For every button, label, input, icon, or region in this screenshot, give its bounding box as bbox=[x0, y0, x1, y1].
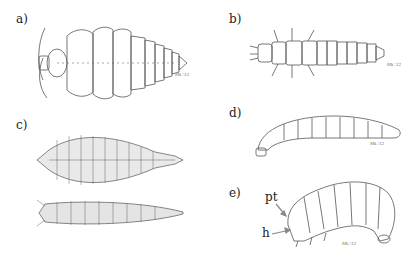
larva-illustration-d bbox=[254, 108, 404, 158]
larva-illustration-c-dorsal bbox=[35, 130, 185, 190]
panel-label-e: e) bbox=[229, 186, 241, 200]
signature-e: Mk.'12 bbox=[342, 241, 356, 246]
annotation-arrows bbox=[268, 200, 298, 240]
panel-label-b: b) bbox=[229, 12, 241, 26]
panel-label-a: a) bbox=[16, 12, 28, 26]
signature-a: Mk.'12 bbox=[175, 72, 189, 77]
panel-label-d: d) bbox=[229, 106, 241, 120]
larva-illustration-b bbox=[248, 24, 398, 80]
panel-label-c: c) bbox=[16, 118, 27, 132]
signature-d: Mk.'12 bbox=[370, 141, 384, 146]
larva-illustration-a bbox=[35, 18, 195, 108]
larva-illustration-c-ventral bbox=[35, 196, 185, 230]
arrow-h-head bbox=[285, 228, 290, 233]
larva-illustration-e bbox=[284, 175, 404, 249]
signature-b: Mk.'12 bbox=[387, 62, 401, 67]
